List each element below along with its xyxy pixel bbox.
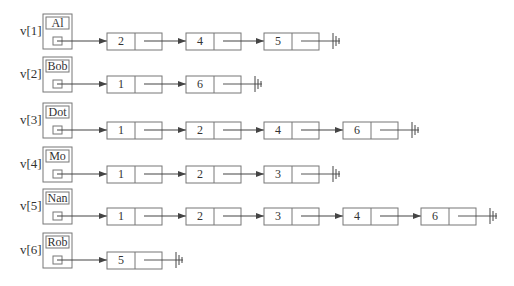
node-value: 1 bbox=[118, 167, 124, 181]
list-node: 2 bbox=[186, 122, 264, 139]
list-node: 2 bbox=[186, 208, 264, 225]
vertex-name: Al bbox=[52, 16, 65, 30]
list-node: 3 bbox=[264, 166, 340, 183]
node-value: 2 bbox=[197, 167, 203, 181]
ground-icon bbox=[301, 166, 340, 182]
vertex-name: Nan bbox=[48, 191, 68, 205]
list-node: 1 bbox=[107, 208, 186, 225]
adjacency-list-diagram: v[1]Al245v[2]Bob16v[3]Dot1246v[4]Mo123v[… bbox=[0, 0, 514, 286]
list-node: 2 bbox=[186, 166, 264, 183]
vertex-row: v[1]Al245 bbox=[20, 14, 340, 50]
node-value: 6 bbox=[432, 209, 438, 223]
list-node: 1 bbox=[107, 122, 186, 139]
node-value: 4 bbox=[197, 34, 203, 48]
node-value: 6 bbox=[197, 77, 203, 91]
ground-icon bbox=[144, 252, 183, 268]
vertex-name: Bob bbox=[47, 59, 67, 73]
list-node: 5 bbox=[107, 252, 183, 269]
node-value: 2 bbox=[197, 209, 203, 223]
list-node: 5 bbox=[264, 33, 340, 50]
vertex-name: Rob bbox=[47, 235, 67, 249]
node-value: 2 bbox=[118, 34, 124, 48]
list-node: 6 bbox=[186, 76, 262, 93]
vertex-name: Dot bbox=[49, 105, 68, 119]
node-value: 1 bbox=[118, 209, 124, 223]
list-node: 1 bbox=[107, 166, 186, 183]
node-value: 6 bbox=[354, 123, 360, 137]
ground-icon bbox=[223, 76, 262, 92]
vertex-label: v[4] bbox=[20, 156, 42, 171]
node-value: 4 bbox=[275, 123, 281, 137]
ground-icon bbox=[458, 208, 497, 224]
list-node: 1 bbox=[107, 76, 186, 93]
list-node: 6 bbox=[421, 208, 497, 225]
node-value: 1 bbox=[118, 77, 124, 91]
vertex-row: v[6]Rob5 bbox=[20, 233, 183, 269]
list-node: 4 bbox=[343, 208, 421, 225]
ground-icon bbox=[380, 122, 419, 138]
vertex-row: v[3]Dot1246 bbox=[20, 103, 419, 139]
vertex-label: v[1] bbox=[20, 23, 42, 38]
node-value: 3 bbox=[275, 167, 281, 181]
node-value: 1 bbox=[118, 123, 124, 137]
ground-icon bbox=[301, 33, 340, 49]
vertex-label: v[3] bbox=[20, 112, 42, 127]
vertex-label: v[2] bbox=[20, 66, 42, 81]
node-value: 5 bbox=[275, 34, 281, 48]
list-node: 2 bbox=[107, 33, 186, 50]
vertex-row: v[5]Nan12346 bbox=[20, 189, 497, 225]
node-value: 5 bbox=[118, 253, 124, 267]
list-node: 4 bbox=[186, 33, 264, 50]
node-value: 3 bbox=[275, 209, 281, 223]
vertex-label: v[5] bbox=[20, 198, 42, 213]
node-value: 2 bbox=[197, 123, 203, 137]
vertex-name: Mo bbox=[49, 149, 66, 163]
list-node: 6 bbox=[343, 122, 419, 139]
node-value: 4 bbox=[354, 209, 360, 223]
list-node: 3 bbox=[264, 208, 343, 225]
list-node: 4 bbox=[264, 122, 343, 139]
vertex-label: v[6] bbox=[20, 242, 42, 257]
vertex-row: v[2]Bob16 bbox=[20, 57, 262, 93]
vertex-row: v[4]Mo123 bbox=[20, 147, 340, 183]
